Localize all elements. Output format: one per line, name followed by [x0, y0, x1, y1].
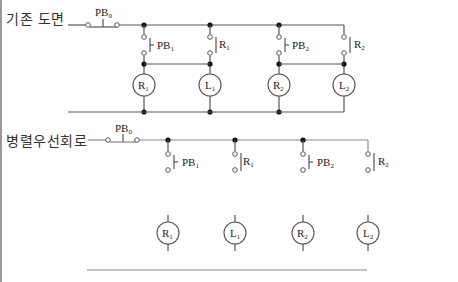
svg-text:R1: R1	[219, 38, 230, 52]
main-switch-pb0: PB0	[68, 6, 119, 27]
branch-r1-l1: R1 L1	[199, 22, 230, 114]
ladder-diagram: PB0 PB1 R1 R1	[0, 0, 458, 282]
contact-r2-2: R2	[366, 152, 390, 173]
lamp-l1-2: L1	[224, 215, 246, 251]
coil-r1-2: R1	[157, 215, 179, 251]
svg-text:R2: R2	[354, 38, 365, 52]
svg-text:PB2: PB2	[292, 39, 309, 53]
svg-text:R2: R2	[378, 155, 389, 169]
svg-text:PB2: PB2	[317, 156, 334, 170]
svg-text:PB1: PB1	[157, 39, 174, 53]
lamp-l2-2: L2	[357, 215, 379, 251]
svg-text:PB0: PB0	[95, 6, 112, 20]
coil-r2-2: R2	[292, 215, 314, 251]
contact-pb2-2: PB2	[300, 137, 334, 172]
contact-r1-2: R1	[232, 137, 254, 172]
branch-pb2-r2: PB2 R2	[268, 22, 309, 114]
circuit-parallel-priority: PB0 PB1 R1	[87, 122, 389, 270]
contact-pb1-2: PB1	[165, 137, 199, 172]
svg-text:R1: R1	[243, 155, 254, 169]
branch-pb1-r1: PB1 R1	[133, 22, 174, 114]
circuit-existing: PB0 PB1 R1 R1	[68, 6, 365, 115]
main-switch-pb0-2: PB0	[88, 122, 139, 142]
branch-r2-l2: R2 L2	[333, 35, 365, 112]
svg-text:PB1: PB1	[182, 156, 199, 170]
svg-text:PB0: PB0	[115, 122, 132, 136]
